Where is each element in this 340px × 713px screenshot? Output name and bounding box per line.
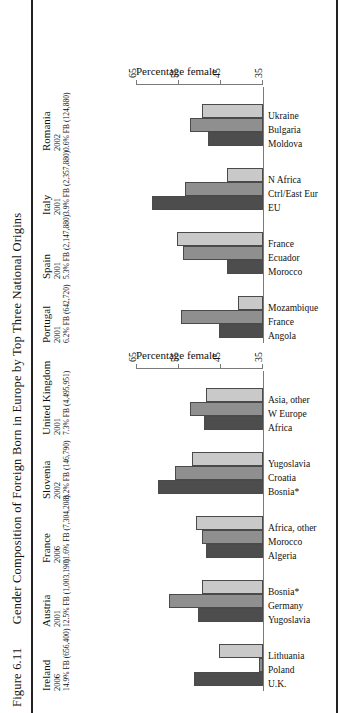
origin-label-text: Germany: [268, 601, 303, 611]
bar: [238, 296, 263, 310]
group-meta: United Kingdom20017.3% FB (4,495,951): [40, 371, 71, 435]
origin-label: France: [266, 232, 332, 246]
origin-labels: AngolaFranceMozambique: [266, 284, 332, 338]
foreign-born-share: 7.3% FB (4,495,951): [62, 371, 71, 435]
bar: [185, 182, 263, 196]
origin-label-text: Asia, other: [268, 395, 310, 405]
bar: [208, 132, 263, 146]
bar-series: [137, 92, 263, 146]
survey-year: 2006: [52, 499, 62, 563]
origin-label: N Africa: [266, 168, 332, 182]
chart-panel-left: Ireland200614.9% FB (656,400)U.K.PolandL…: [40, 361, 332, 691]
axis-tick: [136, 364, 137, 369]
origin-label-text: Angola: [268, 331, 296, 341]
axis-title: Percentage female: [136, 349, 217, 361]
country-name: Slovenia: [40, 435, 52, 499]
footer-rule-bottom: [336, 0, 338, 713]
bar: [219, 644, 263, 658]
bar: [190, 402, 264, 416]
country-name: Spain: [40, 215, 52, 279]
chart-group: United Kingdom20017.3% FB (4,495,951)Afr…: [40, 371, 332, 435]
country-name: Austria: [40, 563, 52, 627]
chart-panel-right: Portugal20016.2% FB (642,720)AngolaFranc…: [40, 13, 332, 343]
origin-label: Bosnia*: [266, 580, 332, 594]
foreign-born-share: 8.2% FB (146,790): [62, 435, 71, 499]
bar-series: [137, 220, 263, 274]
group-plot: AlgeriaMoroccoAfrica, other: [136, 499, 332, 563]
foreign-born-share: 5.3% FB (2,147,880): [62, 215, 71, 279]
origin-label: Lithuania: [266, 644, 332, 658]
group-plot: AngolaFranceMozambique: [136, 279, 332, 343]
foreign-born-share: 3.9% FB (2,357,880): [62, 151, 71, 215]
origin-label-text: Bosnia*: [268, 587, 299, 597]
group-plot: U.K.PolandLithuania: [136, 627, 332, 691]
origin-labels: AfricaW EuropeAsia, other: [266, 376, 332, 430]
bar-series: [137, 568, 263, 622]
figure-number: Figure 6.11: [10, 648, 24, 707]
group-meta: Romania20020.6% FB (124,880): [40, 87, 71, 151]
origin-label-text: Ecuador: [268, 253, 300, 263]
bar-series: [137, 632, 263, 686]
origin-labels: YugoslaviaGermanyBosnia*: [266, 568, 332, 622]
country-name: Italy: [40, 151, 52, 215]
foreign-born-share: 6.2% FB (642,720): [62, 279, 71, 343]
bar: [227, 260, 263, 274]
group-plot: MoroccoEcuadorFrance: [136, 215, 332, 279]
chart-group: Italy20013.9% FB (2,357,880)EUCtrl/East …: [40, 151, 332, 215]
group-meta: Spain20015.3% FB (2,147,880): [40, 215, 71, 279]
group-plot: AfricaW EuropeAsia, other: [136, 371, 332, 435]
bar: [158, 480, 263, 494]
origin-label-text: Algeria: [268, 551, 297, 561]
bar: [227, 168, 263, 182]
figure-header: Figure 6.11 Gender Composition of Foreig…: [10, 213, 25, 707]
axis-tick: [220, 80, 221, 85]
group-plot: EUCtrl/East EurN Africa: [136, 151, 332, 215]
group-meta: Austria200112.5% FB (1,003,190): [40, 563, 71, 627]
origin-labels: U.K.PolandLithuania: [266, 632, 332, 686]
origin-label: Yugoslavia: [266, 452, 332, 466]
axis-tick-label: 35: [253, 68, 264, 78]
foreign-born-share: 12.5% FB (1,003,190): [62, 563, 71, 627]
origin-label-text: France: [268, 317, 294, 327]
group-meta: France200611.6% FB (7,304,208): [40, 499, 71, 563]
axis-tick: [178, 80, 179, 85]
chart-group: Ireland200614.9% FB (656,400)U.K.PolandL…: [40, 627, 332, 691]
origin-labels: EUCtrl/East EurN Africa: [266, 156, 332, 210]
axis-spine: [137, 84, 263, 85]
origin-labels: AlgeriaMoroccoAfrica, other: [266, 504, 332, 558]
bar: [190, 118, 264, 132]
origin-label-text: Morocco: [268, 537, 302, 547]
origin-label: Asia, other: [266, 388, 332, 402]
country-name: France: [40, 499, 52, 563]
axis-tick: [136, 80, 137, 85]
origin-label-text: Bosnia*: [268, 487, 299, 497]
origin-label-text: EU: [268, 203, 281, 213]
origin-label-text: Mozambique: [268, 303, 318, 313]
axis-tick: [220, 364, 221, 369]
survey-year: 2001: [52, 151, 62, 215]
bar: [181, 310, 263, 324]
group-meta: Slovenia20028.2% FB (146,790): [40, 435, 71, 499]
value-axis: 35455565: [136, 43, 332, 85]
group-plot: MoldovaBulgariaUkraine: [136, 87, 332, 151]
origin-label-text: Africa, other: [268, 523, 317, 533]
chart-group: Austria200112.5% FB (1,003,190)Yugoslavi…: [40, 563, 332, 627]
group-plot: Bosnia*CroatiaYugoslavia: [136, 435, 332, 499]
bar: [183, 246, 263, 260]
bar: [169, 594, 264, 608]
origin-label: Mozambique: [266, 296, 332, 310]
origin-label-text: France: [268, 239, 294, 249]
chart-group: Spain20015.3% FB (2,147,880)MoroccoEcuad…: [40, 215, 332, 279]
survey-year: 2001: [52, 563, 62, 627]
country-name: Ireland: [40, 627, 52, 691]
bar: [202, 104, 263, 118]
bar: [219, 324, 263, 338]
survey-year: 2006: [52, 627, 62, 691]
bar: [206, 544, 263, 558]
axis-spine: [137, 368, 263, 369]
origin-label-text: Lithuania: [268, 651, 304, 661]
bar: [177, 232, 263, 246]
bar: [192, 452, 263, 466]
bar-series: [137, 284, 263, 338]
header-rule-top: [31, 0, 33, 713]
